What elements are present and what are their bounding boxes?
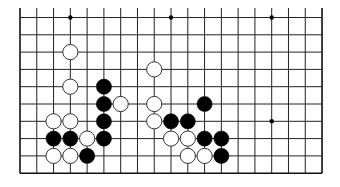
black-stone[interactable] — [214, 148, 229, 163]
white-stone[interactable] — [63, 79, 78, 94]
black-stone[interactable] — [96, 79, 111, 94]
black-stone[interactable] — [80, 148, 95, 163]
white-stone[interactable] — [80, 131, 95, 146]
black-stone[interactable] — [96, 96, 111, 111]
white-stone[interactable] — [46, 114, 61, 129]
black-stone[interactable] — [96, 114, 111, 129]
black-stone[interactable] — [180, 114, 195, 129]
star-point-icon — [270, 119, 274, 123]
black-stone[interactable] — [163, 114, 178, 129]
white-stone[interactable] — [147, 96, 162, 111]
white-stone[interactable] — [113, 96, 128, 111]
white-stone[interactable] — [63, 148, 78, 163]
white-stone[interactable] — [180, 148, 195, 163]
white-stone[interactable] — [46, 148, 61, 163]
white-stone[interactable] — [63, 114, 78, 129]
black-stone[interactable] — [197, 131, 212, 146]
black-stone[interactable] — [46, 131, 61, 146]
star-point-icon — [169, 15, 173, 19]
white-stone[interactable] — [163, 131, 178, 146]
black-stone[interactable] — [63, 131, 78, 146]
star-point-icon — [68, 15, 72, 19]
go-board[interactable] — [0, 0, 340, 187]
star-point-icon — [270, 15, 274, 19]
white-stone[interactable] — [63, 45, 78, 60]
black-stone[interactable] — [214, 131, 229, 146]
white-stone[interactable] — [197, 148, 212, 163]
black-stone[interactable] — [197, 96, 212, 111]
black-stone[interactable] — [96, 131, 111, 146]
white-stone[interactable] — [180, 131, 195, 146]
white-stone[interactable] — [147, 62, 162, 77]
white-stone[interactable] — [147, 114, 162, 129]
